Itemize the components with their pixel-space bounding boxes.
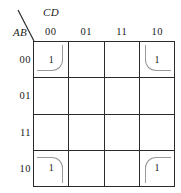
kmap-cell[interactable] (69, 115, 104, 151)
kmap-cell[interactable] (140, 115, 175, 151)
kmap-cell[interactable] (140, 78, 175, 114)
kmap-cell[interactable] (34, 115, 69, 151)
column-header-3: 10 (140, 25, 176, 39)
row-header-1: 01 (6, 78, 31, 115)
cell-value: 1 (154, 55, 159, 65)
column-header-0: 00 (33, 25, 69, 39)
col-variable-label: CD (43, 7, 59, 18)
kmap-grid: 1 1 (33, 41, 175, 187)
kmap-cell[interactable]: 1 (140, 42, 175, 78)
kmap-cell[interactable] (69, 42, 104, 78)
kmap-cell[interactable] (69, 78, 104, 114)
kmap-cell[interactable] (105, 42, 140, 78)
cell-value: 1 (49, 163, 54, 173)
kmap-cell[interactable]: 1 (34, 42, 69, 78)
cell-value: 1 (49, 55, 54, 65)
row-header-2: 11 (6, 114, 31, 151)
row-header-3: 10 (6, 151, 31, 188)
karnaugh-map: CD AB 00 01 11 10 00 01 11 10 1 1 (0, 0, 181, 193)
column-header-2: 11 (104, 25, 140, 39)
kmap-cell[interactable] (105, 115, 140, 151)
column-header-row: 00 01 11 10 (33, 25, 175, 39)
kmap-cell[interactable] (105, 151, 140, 187)
column-header-1: 01 (69, 25, 105, 39)
kmap-cell[interactable] (69, 151, 104, 187)
kmap-cell[interactable] (34, 78, 69, 114)
row-header-0: 00 (6, 41, 31, 78)
row-header-column: 00 01 11 10 (6, 41, 31, 187)
kmap-cell[interactable]: 1 (140, 151, 175, 187)
kmap-cell[interactable] (105, 78, 140, 114)
row-variable-label: AB (13, 27, 27, 38)
kmap-cell[interactable]: 1 (34, 151, 69, 187)
cell-value: 1 (154, 163, 159, 173)
